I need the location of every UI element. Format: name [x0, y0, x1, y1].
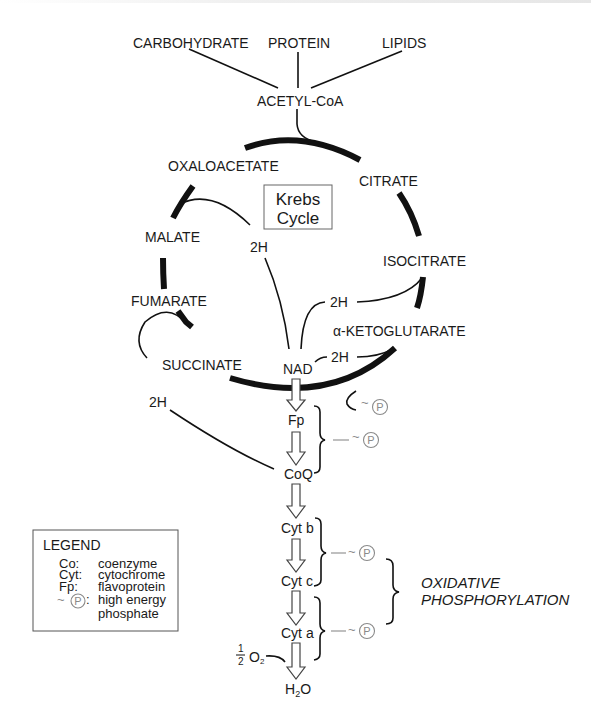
label-malate: MALATE	[145, 229, 200, 245]
arrow-fp-to-coq	[287, 432, 305, 465]
label-lipids: LIPIDS	[382, 35, 426, 51]
label-acetyl-coa: ACETYL-CoA	[257, 93, 344, 109]
label-citrate: CITRATE	[359, 173, 418, 189]
arrow-cytb-to-cytc	[287, 539, 305, 572]
svg-text:~: ~	[57, 592, 65, 607]
phosphate-1: ~ P	[361, 395, 388, 415]
label-coq: CoQ	[284, 466, 313, 482]
krebs-title-line2: Cycle	[277, 209, 320, 228]
legend-title: LEGEND	[43, 537, 101, 553]
phosphate-2: ~ P	[352, 429, 379, 448]
brace-fp-coq	[314, 406, 325, 473]
label-2h-malate: 2H	[250, 239, 268, 255]
arc-fumarate-malate	[163, 258, 164, 289]
legend-box: LEGEND Co: coenzyme Cyt: cytochrome Fp: …	[33, 530, 178, 631]
line-oxygen-to-arrow	[266, 656, 285, 662]
krebs-cycle-diagram: CARBOHYDRATE PROTEIN LIPIDS ACETYL-CoA K…	[0, 0, 591, 724]
brace-cytb-cytc	[314, 518, 326, 586]
svg-text:~: ~	[348, 544, 356, 559]
label-protein: PROTEIN	[268, 35, 330, 51]
svg-text:~: ~	[348, 622, 356, 637]
krebs-cycle-title-box: Krebs Cycle	[264, 185, 332, 229]
label-cyt-b: Cyt b	[281, 520, 314, 536]
line-ring-to-phosphate-1	[347, 391, 356, 410]
brace-cytc-cyta	[314, 597, 325, 660]
arrow-coq-to-cytb	[287, 484, 305, 518]
label-2h-ketoglutarate: 2H	[331, 349, 349, 365]
label-half-oxygen: 1 2 O2	[236, 643, 265, 667]
line-2h-isocitrate-to-nad	[301, 302, 325, 349]
arrow-cyta-to-water	[287, 643, 305, 679]
legend-meaning-high-energy: high energy	[98, 592, 166, 607]
legend-meaning-phosphate: phosphate	[98, 606, 159, 621]
svg-text:~: ~	[361, 395, 369, 410]
line-2h-succinate-to-coq	[170, 410, 274, 469]
svg-text:P: P	[376, 401, 383, 413]
label-2h-succinate: 2H	[149, 394, 167, 410]
svg-text:P: P	[363, 547, 370, 559]
label-alpha-ketoglutarate: α-KETOGLUTARATE	[333, 323, 466, 339]
line-2h-ketoglutarate-to-nad	[315, 357, 327, 362]
line-acetylcoa-into-cycle	[297, 109, 316, 142]
arc-citrate-isocitrate	[399, 193, 419, 236]
svg-text::: :	[86, 592, 90, 607]
line-isocitrate-to-2h	[357, 278, 422, 302]
svg-text:2: 2	[238, 656, 244, 667]
label-cyta: Cyt a	[281, 625, 314, 641]
label-2h-isocitrate: 2H	[330, 294, 348, 310]
svg-text:P: P	[367, 434, 374, 446]
svg-text:1: 1	[238, 643, 244, 654]
label-fp: Fp	[288, 412, 305, 428]
krebs-title-line1: Krebs	[276, 190, 320, 209]
arrow-cytc-to-cyta	[287, 591, 305, 625]
label-isocitrate: ISOCITRATE	[383, 253, 466, 269]
label-nad: NAD	[283, 361, 313, 377]
line-carbohydrate-to-acetylcoa	[189, 49, 278, 88]
brace-oxidative-phosphorylation	[386, 559, 399, 624]
line-lipids-to-acetylcoa	[311, 51, 402, 88]
svg-text:O2: O2	[249, 649, 265, 666]
nutrient-sources: CARBOHYDRATE PROTEIN LIPIDS ACETYL-CoA	[133, 35, 426, 142]
label-water: H2O	[285, 681, 311, 699]
line-succinate-to-2h	[139, 312, 186, 358]
label-carbohydrate: CARBOHYDRATE	[133, 35, 249, 51]
arrow-nad-to-fp	[287, 379, 305, 411]
label-succinate: SUCCINATE	[162, 357, 242, 373]
label-oxaloacetate: OXALOACETATE	[168, 158, 279, 174]
label-phosphorylation: PHOSPHORYLATION	[421, 591, 570, 608]
line-2h-malate-to-nad	[265, 258, 289, 349]
line-malate-to-2h	[180, 199, 250, 225]
label-fumarate: FUMARATE	[131, 293, 207, 309]
phosphate-3: ~ P	[348, 544, 375, 561]
arc-succinate-fumarate	[178, 311, 192, 327]
svg-text:~: ~	[352, 429, 360, 444]
electron-transport-chain: NAD Fp CoQ Cyt b Cyt c Cyt a H2O 1 2 O2	[236, 361, 314, 699]
svg-text:P: P	[363, 625, 370, 637]
phosphorylation-sites: ~ P ~ P ~ P ~ P OXIDATIVE PHOS	[314, 391, 570, 660]
label-cyt-c: Cyt c	[281, 573, 313, 589]
phosphate-4: ~ P	[348, 622, 375, 639]
label-oxidative: OXIDATIVE	[421, 574, 501, 591]
svg-text:P: P	[74, 595, 81, 607]
